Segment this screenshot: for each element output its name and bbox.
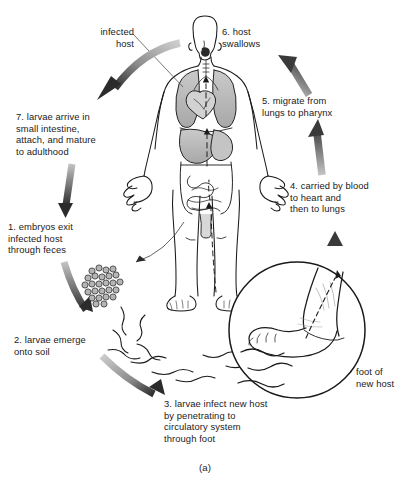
up-arrow-step4-to-step5 [308,119,324,175]
hookworm-life-cycle-figure: infected host 6. host swallows 5. migrat… [0,0,413,489]
label-step-4: 4. carried by blood to heart and then to… [290,180,406,215]
label-step-3: 3. larvae infect new host by penetrating… [164,398,314,444]
label-step-1: 1. embryos exit infected host through fe… [8,221,116,256]
curved-arrow-infected-to-step7 [97,43,180,100]
foot-closeup-circle-icon [229,262,365,398]
leader-line-feces [136,222,184,262]
label-foot-of-new-host: foot of new host [356,366,412,389]
label-step-7: 7. larvae arrive in small intestine, att… [16,111,148,157]
curved-arrow-step1-to-step2 [64,262,93,312]
up-arrow-step5-to-step6 [278,55,309,95]
label-infected-host: infected host [62,26,134,49]
label-step-6: 6. host swallows [222,26,308,49]
down-arrow-step7-to-step1 [58,164,73,218]
figure-caption: (a) [182,462,228,474]
label-step-2: 2. larvae emerge onto soil [14,334,130,357]
curved-arrow-step2-to-step3 [102,356,165,395]
label-step-5: 5. migrate from lungs to pharynx [262,95,404,118]
